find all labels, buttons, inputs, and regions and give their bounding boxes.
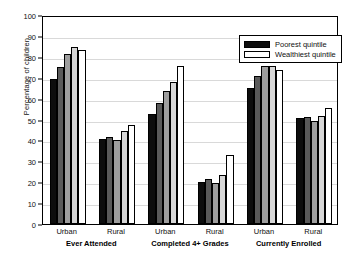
legend-label-poorest: Poorest quintile [275, 40, 327, 49]
x-axis-tick-label: Rural [206, 227, 224, 236]
bar [121, 131, 128, 224]
bar [296, 118, 303, 224]
bar [113, 140, 120, 224]
legend-swatch-wealthiest [244, 51, 270, 58]
bar-group [99, 17, 135, 224]
bar [318, 116, 325, 224]
y-axis-tick-label: 20 [28, 179, 36, 188]
y-axis-tick-label: 80 [28, 53, 36, 62]
bar [205, 179, 212, 224]
bar-chart: Percentage of children 01020304050607080… [0, 0, 346, 270]
bar-group [148, 17, 184, 224]
bar [148, 114, 155, 224]
bar [276, 70, 283, 224]
bar [212, 183, 219, 224]
bar [78, 50, 85, 225]
x-axis-tick-label: Urban [155, 227, 175, 236]
legend-item-wealthiest: Wealthiest quintile [244, 49, 336, 59]
bar [106, 137, 113, 224]
y-axis-tick-label: 50 [28, 116, 36, 125]
bar [170, 82, 177, 224]
bar [99, 139, 106, 224]
legend-swatch-poorest [244, 41, 270, 48]
bar [163, 91, 170, 224]
bar [177, 66, 184, 224]
plot-area: Poorest quintile Wealthiest quintile [42, 16, 338, 225]
bar [325, 108, 332, 224]
y-axis-tick-label: 0 [32, 221, 36, 230]
x-axis-tick-label: Rural [304, 227, 322, 236]
bar-group [198, 17, 234, 224]
bar [156, 103, 163, 224]
bar [50, 79, 57, 224]
y-axis-ticks: 0102030405060708090100 [0, 16, 42, 225]
bar [269, 66, 276, 224]
bar [198, 182, 205, 224]
bar-group [50, 17, 86, 224]
x-axis-tick-label: Urban [56, 227, 76, 236]
y-axis-tick-label: 100 [23, 12, 36, 21]
bar [57, 67, 64, 224]
bar [128, 125, 135, 224]
bar [304, 117, 311, 224]
legend-label-wealthiest: Wealthiest quintile [275, 50, 336, 59]
legend-item-poorest: Poorest quintile [244, 39, 336, 49]
bar [247, 88, 254, 224]
bar [311, 121, 318, 224]
x-axis-tick-label: Rural [107, 227, 125, 236]
x-axis-group-label: Currently Enrolled [256, 239, 321, 248]
bar [64, 54, 71, 224]
bar [219, 175, 226, 224]
y-axis-tick-label: 70 [28, 74, 36, 83]
legend: Poorest quintile Wealthiest quintile [239, 35, 342, 63]
y-axis-tick-label: 90 [28, 32, 36, 41]
bar [71, 47, 78, 224]
x-axis-labels: UrbanRuralUrbanRuralUrbanRuralEver Atten… [42, 227, 338, 267]
x-axis-group-label: Ever Attended [66, 239, 117, 248]
y-axis-tick-label: 60 [28, 95, 36, 104]
x-axis-group-label: Completed 4+ Grades [151, 239, 228, 248]
bar [261, 66, 268, 224]
x-axis-tick-label: Urban [254, 227, 274, 236]
bar [254, 76, 261, 224]
y-axis-tick-label: 10 [28, 200, 36, 209]
y-axis-tick-label: 40 [28, 137, 36, 146]
y-axis-tick-label: 30 [28, 158, 36, 167]
bar [226, 155, 233, 224]
